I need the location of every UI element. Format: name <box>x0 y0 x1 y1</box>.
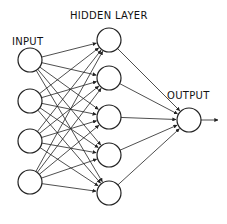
input-label: INPUT <box>12 36 44 47</box>
connection-arrow <box>41 121 96 138</box>
connection-arrow <box>42 43 97 57</box>
connection-arrow <box>118 129 180 185</box>
connection-arrow <box>37 50 101 131</box>
hidden-node <box>97 105 121 129</box>
connection-arrow <box>38 69 101 145</box>
hidden-node <box>97 143 121 167</box>
output-label: OUTPUT <box>167 90 210 101</box>
connection-arrow <box>39 48 98 94</box>
connection-arrow <box>120 125 177 150</box>
connection-arrow <box>42 63 97 75</box>
input-node <box>18 170 42 194</box>
connection-arrow <box>117 48 179 110</box>
input-node <box>18 48 42 72</box>
hidden-layer-label: HIDDEN LAYER <box>70 10 148 21</box>
input-node <box>18 89 42 113</box>
connection-arrow <box>36 70 102 182</box>
output-node <box>177 108 201 132</box>
hidden-node <box>97 66 121 90</box>
nodes <box>18 28 201 205</box>
connection-arrow <box>38 110 101 183</box>
hidden-node <box>97 28 121 52</box>
connection-arrow <box>121 117 176 119</box>
hidden-node <box>97 181 121 205</box>
neural-network-diagram: HIDDEN LAYER INPUT OUTPUT <box>0 0 227 224</box>
connection-arrow <box>42 184 96 192</box>
connection-arrow <box>37 88 101 172</box>
input-node <box>18 129 42 153</box>
connection-arrow <box>40 108 98 148</box>
connection-arrow <box>42 143 96 153</box>
